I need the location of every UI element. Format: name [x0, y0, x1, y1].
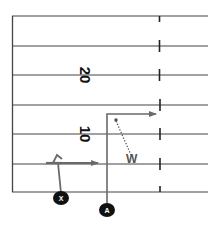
- player-a-label: A: [104, 207, 109, 214]
- defender-path: [116, 121, 131, 155]
- defender-w-label: W: [126, 152, 138, 166]
- route-x-shoulder: [53, 155, 62, 163]
- yard-lines: [12, 16, 208, 192]
- player-a: A: [99, 203, 115, 217]
- yard-number-20: 20: [77, 67, 94, 84]
- hash-marks: [160, 16, 161, 192]
- play-diagram: 20 10 W X A: [0, 0, 223, 226]
- player-x-label: X: [59, 195, 64, 202]
- yard-number-10: 10: [77, 126, 94, 143]
- route-x: [58, 163, 98, 193]
- player-x: X: [53, 191, 69, 205]
